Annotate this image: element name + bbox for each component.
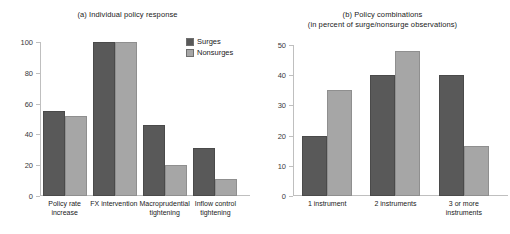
y-tick-mark xyxy=(289,105,293,106)
bar-nonsurges[interactable] xyxy=(165,165,187,196)
y-tick-mark xyxy=(289,75,293,76)
bar-group xyxy=(90,42,140,196)
y-tick-label: 50 xyxy=(278,41,286,50)
legend-swatch-nonsurges-icon xyxy=(186,49,194,57)
category-label: Inflow controltightening xyxy=(191,199,240,217)
y-tick-mark xyxy=(36,196,40,197)
y-tick-label: 20 xyxy=(278,131,286,140)
bar-group xyxy=(361,45,429,196)
bar-surges[interactable] xyxy=(193,148,215,196)
y-tick-label: 100 xyxy=(20,38,33,47)
y-tick-label: 80 xyxy=(25,68,33,77)
legend-swatch-surges-icon xyxy=(186,38,194,46)
legend-label-nonsurges: Nonsurges xyxy=(197,48,233,57)
category-label: 3 or more instruments xyxy=(430,199,498,217)
bar-group xyxy=(140,42,190,196)
y-tick-mark xyxy=(36,42,40,43)
panel-b-plot-area: 01020304050 xyxy=(293,45,498,196)
y-tick-mark xyxy=(289,196,293,197)
y-tick-label: 30 xyxy=(278,101,286,110)
y-tick-mark xyxy=(289,45,293,46)
bar-nonsurges[interactable] xyxy=(215,179,237,196)
bar-surges[interactable] xyxy=(43,111,65,196)
panel-b-title-line2: (in percent of surge/nonsurge observatio… xyxy=(255,20,510,30)
bar-nonsurges[interactable] xyxy=(65,116,87,196)
bar-group xyxy=(430,45,498,196)
bar-group xyxy=(190,42,240,196)
legend-item-nonsurges: Nonsurges xyxy=(186,48,233,57)
y-tick-label: 20 xyxy=(25,161,33,170)
panel-a-category-labels: Policy rateincreaseFX interventionMacrop… xyxy=(40,199,240,217)
y-tick-mark xyxy=(36,73,40,74)
y-tick-mark xyxy=(289,136,293,137)
bar-surges[interactable] xyxy=(93,42,115,196)
panel-a-title: (a) Individual policy response xyxy=(0,10,255,20)
y-tick-mark xyxy=(289,166,293,167)
panel-b-title: (b) Policy combinations (in percent of s… xyxy=(255,10,510,30)
category-label: 2 instruments xyxy=(361,199,429,217)
bar-surges[interactable] xyxy=(370,75,395,196)
panel-individual-policy-response: (a) Individual policy response 020406080… xyxy=(0,0,255,234)
y-tick-label: 40 xyxy=(278,71,286,80)
panel-a-legend: Surges Nonsurges xyxy=(186,37,233,57)
bar-nonsurges[interactable] xyxy=(395,51,420,196)
y-tick-label: 0 xyxy=(282,192,286,201)
bar-group xyxy=(293,45,361,196)
panel-b-bar-groups xyxy=(293,45,498,196)
panel-a-bar-groups xyxy=(40,42,240,196)
legend-label-surges: Surges xyxy=(197,37,221,46)
bar-nonsurges[interactable] xyxy=(464,146,489,196)
bar-group xyxy=(40,42,90,196)
category-label: FX intervention xyxy=(89,199,138,217)
y-tick-label: 60 xyxy=(25,99,33,108)
panel-b-category-labels: 1 instrument2 instruments3 or more instr… xyxy=(293,199,498,217)
y-tick-mark xyxy=(36,134,40,135)
panel-b-title-line1: (b) Policy combinations xyxy=(343,10,423,19)
bar-surges[interactable] xyxy=(302,136,327,196)
category-label: Macroprudentialtightening xyxy=(139,199,191,217)
category-label: Policy rateincrease xyxy=(40,199,89,217)
y-tick-label: 40 xyxy=(25,130,33,139)
y-tick-label: 0 xyxy=(29,192,33,201)
category-label: 1 instrument xyxy=(293,199,361,217)
figure-container: (a) Individual policy response 020406080… xyxy=(0,0,510,234)
legend-item-surges: Surges xyxy=(186,37,233,46)
y-tick-mark xyxy=(36,165,40,166)
y-tick-label: 10 xyxy=(278,161,286,170)
bar-surges[interactable] xyxy=(439,75,464,196)
bar-surges[interactable] xyxy=(143,125,165,196)
panel-policy-combinations: (b) Policy combinations (in percent of s… xyxy=(255,0,510,234)
bar-nonsurges[interactable] xyxy=(115,42,137,196)
panel-a-plot-area: 020406080100 xyxy=(40,42,240,196)
y-tick-mark xyxy=(36,104,40,105)
bar-nonsurges[interactable] xyxy=(327,90,352,196)
